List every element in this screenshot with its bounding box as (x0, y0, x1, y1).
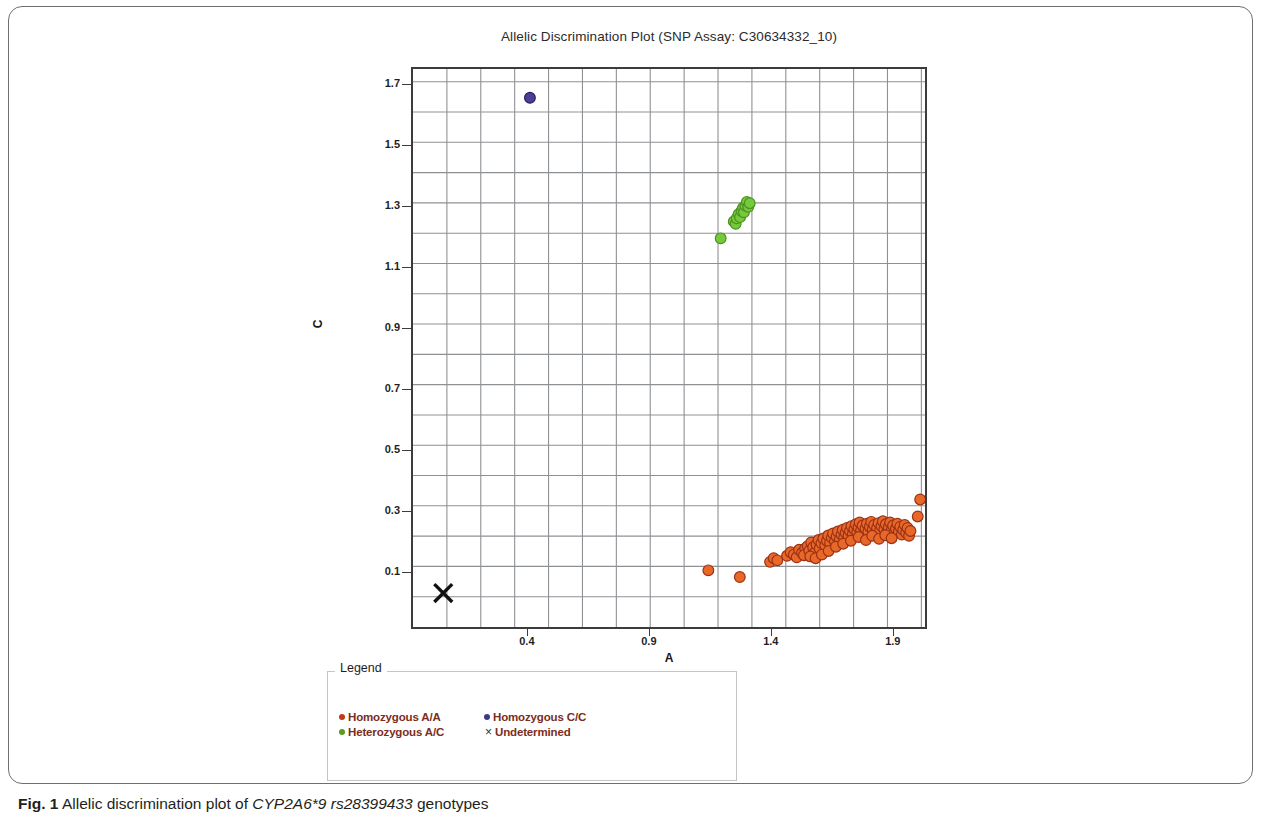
y-axis-tick-labels: 0.10.30.50.70.91.11.31.51.7 (364, 67, 400, 629)
legend-item[interactable]: Homozygous A/A (339, 711, 474, 723)
y-axis-tick-mark (402, 511, 411, 512)
legend-title: Legend (335, 661, 387, 675)
legend-item-label: Undetermined (495, 726, 571, 738)
y-axis-title: C (311, 320, 325, 329)
y-axis-tick-mark (402, 389, 411, 390)
caption-text-part2: genotypes (413, 795, 489, 812)
legend-item-label: Homozygous A/A (348, 711, 441, 723)
y-axis-tick-mark (402, 572, 411, 573)
legend-item[interactable]: ×Undetermined (484, 725, 669, 739)
legend-circle-marker-icon (484, 714, 490, 720)
figure-frame: Allelic Discrimination Plot (SNP Assay: … (8, 6, 1253, 784)
x-axis-tick-label: 0.4 (519, 635, 534, 647)
chart-title: Allelic Discrimination Plot (SNP Assay: … (411, 29, 927, 44)
y-axis-tick-label: 0.9 (385, 321, 400, 333)
y-axis-tick-mark (402, 450, 411, 451)
y-axis-tick-label: 1.3 (385, 199, 400, 211)
x-axis-tick-label: 1.4 (763, 635, 778, 647)
y-axis-tick-label: 1.7 (385, 77, 400, 89)
legend-circle-marker-icon (339, 729, 345, 735)
y-axis-tick-label: 0.3 (385, 504, 400, 516)
caption-text-part1: Allelic discrimination plot of (58, 795, 252, 812)
y-axis-tick-mark (402, 145, 411, 146)
y-axis-tick-label: 0.1 (385, 565, 400, 577)
y-axis-tick-label: 1.1 (385, 260, 400, 272)
y-axis-tick-mark (402, 206, 411, 207)
y-axis-tick-marks (400, 67, 411, 629)
legend-x-marker-icon: × (484, 725, 493, 739)
caption-figure-number: Fig. 1 (18, 795, 58, 812)
legend-circle-marker-icon (339, 714, 345, 720)
legend-item-label: Homozygous C/C (493, 711, 586, 723)
legend-items: Homozygous A/AHomozygous C/CHeterozygous… (339, 711, 669, 739)
legend-item[interactable]: Heterozygous A/C (339, 725, 474, 739)
legend-item[interactable]: Homozygous C/C (484, 711, 669, 723)
scatter-plot-area[interactable] (411, 67, 927, 629)
x-axis-title: A (411, 651, 927, 665)
y-axis-tick-mark (402, 328, 411, 329)
legend-item-label: Heterozygous A/C (348, 726, 444, 738)
y-axis-tick-label: 0.7 (385, 382, 400, 394)
figure-caption: Fig. 1 Allelic discrimination plot of CY… (18, 795, 488, 813)
caption-gene-name: CYP2A6*9 rs28399433 (252, 795, 412, 812)
y-axis-tick-mark (402, 84, 411, 85)
y-axis-tick-label: 1.5 (385, 138, 400, 150)
y-axis-tick-mark (402, 267, 411, 268)
y-axis-tick-label: 0.5 (385, 443, 400, 455)
x-axis-tick-label: 0.9 (641, 635, 656, 647)
x-axis-tick-label: 1.9 (885, 635, 900, 647)
plot-data-points[interactable] (413, 69, 925, 627)
